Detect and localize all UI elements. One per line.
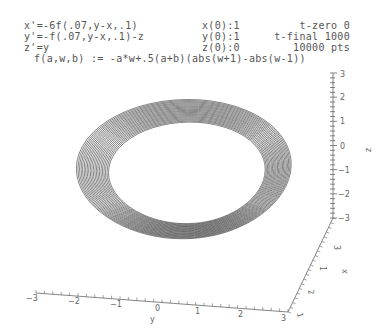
svg-text:−2: −2 (338, 190, 350, 199)
svg-text:1: 1 (340, 117, 345, 126)
svg-text:2: 2 (340, 93, 345, 102)
svg-text:y: y (150, 315, 155, 324)
svg-text:−1: −1 (110, 300, 122, 309)
svg-text:3: 3 (332, 245, 341, 250)
svg-text:1: 1 (295, 312, 305, 319)
attractor-trajectory (76, 100, 291, 239)
svg-text:−1: −1 (338, 166, 350, 175)
svg-text:−2: −2 (68, 297, 80, 306)
svg-text:2: 2 (238, 310, 243, 319)
svg-text:2: 2 (306, 289, 316, 296)
svg-text:1: 1 (318, 266, 327, 271)
svg-text:x: x (340, 269, 349, 274)
svg-text:1: 1 (195, 307, 200, 316)
z-axis-labels: 3 2 1 0 −1 −2 −3 z (338, 70, 373, 223)
svg-text:z: z (364, 148, 373, 152)
svg-text:0: 0 (340, 142, 345, 151)
x-axis-labels: 3 1 x 2 1 (295, 245, 349, 318)
svg-text:−3: −3 (26, 294, 38, 303)
z-axis (330, 73, 337, 218)
svg-text:3: 3 (340, 70, 345, 79)
svg-text:3: 3 (281, 314, 286, 323)
plot-3d: 3 2 1 0 −1 −2 −3 z 3 1 x 2 1 −3 −2 −1 0 … (0, 0, 381, 336)
svg-text:−3: −3 (338, 214, 350, 223)
svg-text:0: 0 (155, 304, 160, 313)
